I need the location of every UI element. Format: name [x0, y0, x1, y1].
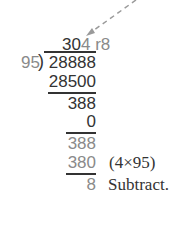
remainder: 8 [36, 176, 96, 193]
step-subtrahend: 28500 [36, 73, 96, 90]
step-subtrahend: 0 [36, 113, 96, 130]
note: Subtract. [108, 176, 169, 193]
step-difference: 388 [36, 95, 96, 112]
step-difference: 388 [36, 135, 96, 152]
dividend: 28888 [36, 54, 96, 71]
note: (4×95) [109, 154, 155, 171]
step-subtrahend: 380 [36, 154, 96, 171]
